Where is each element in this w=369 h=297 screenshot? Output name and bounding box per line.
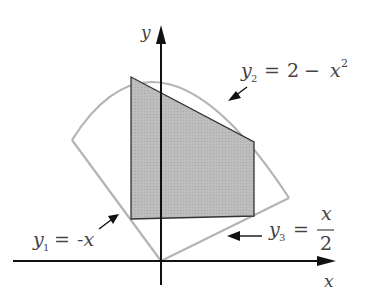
- y-axis-label: y: [140, 22, 151, 42]
- label-y1: y 1 = -x: [32, 228, 94, 253]
- svg-text:=: =: [264, 59, 280, 81]
- svg-text:1: 1: [43, 242, 49, 253]
- arrow-y2: [228, 87, 247, 101]
- arrow-y3: [227, 231, 262, 241]
- svg-text:=: =: [293, 218, 309, 240]
- label-y3: y 3 = x 2: [268, 202, 334, 254]
- region-diagram: y x y 2 = 2 − x 2 y 1 = -x y 3 = x 2: [0, 0, 369, 297]
- svg-text:2: 2: [287, 59, 299, 81]
- x-axis-arrow-icon: [317, 256, 336, 266]
- svg-text:2: 2: [341, 57, 348, 70]
- arrow-y1: [99, 214, 119, 229]
- svg-text:2: 2: [320, 232, 332, 254]
- svg-text:=: =: [54, 228, 70, 250]
- y-axis-arrow-icon: [156, 25, 166, 44]
- svg-text:3: 3: [279, 232, 285, 243]
- svg-text:2: 2: [251, 73, 257, 84]
- svg-text:x: x: [321, 202, 332, 224]
- svg-text:−: −: [304, 59, 320, 81]
- label-y2: y 2 = 2 − x 2: [240, 57, 348, 84]
- x-axis-label: x: [324, 271, 334, 291]
- svg-text:-x: -x: [77, 228, 94, 250]
- svg-text:x: x: [330, 59, 341, 81]
